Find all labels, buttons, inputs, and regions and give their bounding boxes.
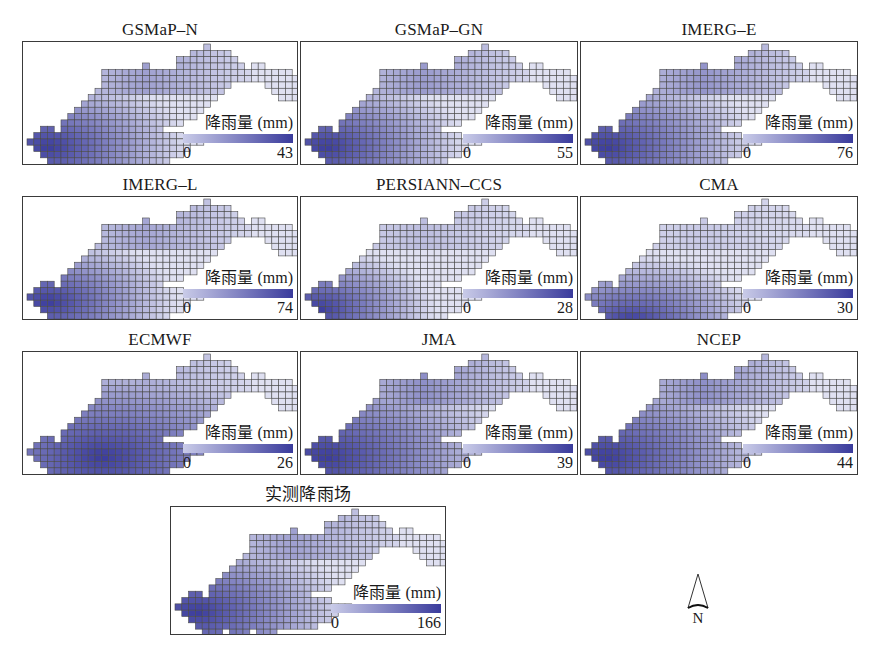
legend-colorbar xyxy=(463,289,573,298)
legend-max: 166 xyxy=(417,614,441,632)
legend-min: 0 xyxy=(463,299,471,317)
map-panel: GSMaP–N降雨量 (mm) 0 43 xyxy=(22,20,298,165)
map-panel: ECMWF降雨量 (mm) 0 26 xyxy=(22,330,298,475)
map-panel: 实测降雨场降雨量 (mm) 0 166 xyxy=(170,485,446,635)
colorbar-legend: 降雨量 (mm) 0 26 xyxy=(183,423,293,472)
legend-colorbar xyxy=(331,604,441,613)
legend-colorbar xyxy=(183,134,293,143)
colorbar-legend: 降雨量 (mm) 0 74 xyxy=(183,268,293,317)
panel-title: 实测降雨场 xyxy=(170,485,446,505)
legend-title: 降雨量 (mm) xyxy=(463,113,573,132)
legend-min: 0 xyxy=(463,454,471,472)
legend-max: 44 xyxy=(837,454,853,472)
panel-title: ECMWF xyxy=(22,330,298,350)
map-frame: 降雨量 (mm) 0 43 xyxy=(22,41,298,165)
panel-title: IMERG–E xyxy=(580,20,858,40)
map-panel: CMA降雨量 (mm) 0 30 xyxy=(580,175,858,320)
legend-min: 0 xyxy=(743,144,751,162)
legend-colorbar xyxy=(743,289,853,298)
map-panel: PERSIANN–CCS降雨量 (mm) 0 28 xyxy=(300,175,578,320)
panel-title: GSMaP–N xyxy=(22,20,298,40)
colorbar-legend: 降雨量 (mm) 0 166 xyxy=(331,583,441,632)
panel-title: JMA xyxy=(300,330,578,350)
map-frame: 降雨量 (mm) 0 39 xyxy=(300,351,578,475)
legend-title: 降雨量 (mm) xyxy=(183,268,293,287)
north-arrow: N xyxy=(683,572,713,632)
legend-colorbar xyxy=(463,134,573,143)
legend-title: 降雨量 (mm) xyxy=(183,423,293,442)
legend-max: 26 xyxy=(277,454,293,472)
legend-max: 28 xyxy=(557,299,573,317)
colorbar-legend: 降雨量 (mm) 0 30 xyxy=(743,268,853,317)
legend-min: 0 xyxy=(743,454,751,472)
map-frame: 降雨量 (mm) 0 76 xyxy=(580,41,858,165)
map-panel: JMA降雨量 (mm) 0 39 xyxy=(300,330,578,475)
legend-min: 0 xyxy=(463,144,471,162)
map-frame: 降雨量 (mm) 0 30 xyxy=(580,196,858,320)
legend-colorbar xyxy=(183,444,293,453)
map-frame: 降雨量 (mm) 0 26 xyxy=(22,351,298,475)
legend-title: 降雨量 (mm) xyxy=(743,113,853,132)
map-frame: 降雨量 (mm) 0 44 xyxy=(580,351,858,475)
panel-title: NCEP xyxy=(580,330,858,350)
legend-min: 0 xyxy=(183,144,191,162)
colorbar-legend: 降雨量 (mm) 0 55 xyxy=(463,113,573,162)
legend-max: 76 xyxy=(837,144,853,162)
colorbar-legend: 降雨量 (mm) 0 39 xyxy=(463,423,573,472)
colorbar-legend: 降雨量 (mm) 0 43 xyxy=(183,113,293,162)
colorbar-legend: 降雨量 (mm) 0 44 xyxy=(743,423,853,472)
legend-min: 0 xyxy=(183,454,191,472)
map-frame: 降雨量 (mm) 0 74 xyxy=(22,196,298,320)
legend-colorbar xyxy=(463,444,573,453)
legend-title: 降雨量 (mm) xyxy=(743,423,853,442)
panel-title: PERSIANN–CCS xyxy=(300,175,578,195)
colorbar-legend: 降雨量 (mm) 0 76 xyxy=(743,113,853,162)
map-panel: IMERG–L降雨量 (mm) 0 74 xyxy=(22,175,298,320)
legend-min: 0 xyxy=(743,299,751,317)
map-frame: 降雨量 (mm) 0 55 xyxy=(300,41,578,165)
north-label: N xyxy=(683,610,713,627)
map-panel: NCEP降雨量 (mm) 0 44 xyxy=(580,330,858,475)
legend-max: 74 xyxy=(277,299,293,317)
legend-colorbar xyxy=(743,444,853,453)
map-panel: IMERG–E降雨量 (mm) 0 76 xyxy=(580,20,858,165)
legend-max: 39 xyxy=(557,454,573,472)
legend-min: 0 xyxy=(183,299,191,317)
legend-max: 43 xyxy=(277,144,293,162)
north-arrow-icon xyxy=(683,572,713,612)
legend-title: 降雨量 (mm) xyxy=(331,583,441,602)
panel-title: GSMaP–GN xyxy=(300,20,578,40)
panel-title: CMA xyxy=(580,175,858,195)
legend-colorbar xyxy=(743,134,853,143)
map-panel: GSMaP–GN降雨量 (mm) 0 55 xyxy=(300,20,578,165)
legend-min: 0 xyxy=(331,614,339,632)
legend-max: 55 xyxy=(557,144,573,162)
legend-max: 30 xyxy=(837,299,853,317)
map-frame: 降雨量 (mm) 0 166 xyxy=(170,506,446,635)
legend-title: 降雨量 (mm) xyxy=(183,113,293,132)
legend-title: 降雨量 (mm) xyxy=(743,268,853,287)
legend-title: 降雨量 (mm) xyxy=(463,268,573,287)
legend-title: 降雨量 (mm) xyxy=(463,423,573,442)
panel-title: IMERG–L xyxy=(22,175,298,195)
legend-colorbar xyxy=(183,289,293,298)
map-frame: 降雨量 (mm) 0 28 xyxy=(300,196,578,320)
colorbar-legend: 降雨量 (mm) 0 28 xyxy=(463,268,573,317)
